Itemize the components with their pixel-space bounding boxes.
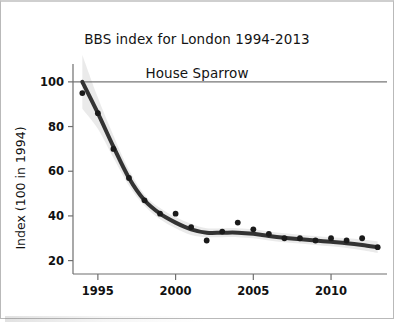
x-tick-label: 2010 [315, 284, 347, 298]
confidence-band [82, 55, 377, 253]
data-point [282, 235, 288, 241]
data-point [250, 226, 256, 232]
data-point [359, 235, 365, 241]
chart-axes [68, 64, 387, 280]
y-tick-label: 20 [48, 254, 64, 268]
data-point [126, 175, 132, 181]
data-point [344, 238, 350, 244]
y-tick-label: 80 [48, 120, 64, 134]
data-point [219, 229, 225, 235]
data-point [79, 90, 85, 96]
x-axis-tick-marks [98, 274, 331, 280]
x-axis-tick-labels: 1995200020052010 [82, 284, 347, 298]
y-axis-title: Index (100 in 1994) [13, 126, 28, 249]
data-point [173, 211, 179, 217]
y-axis-tick-labels: 20406080100 [40, 75, 64, 268]
y-tick-label: 60 [48, 164, 64, 178]
page-edge-artifact [5, 316, 205, 322]
data-point [111, 146, 117, 152]
x-tick-label: 2000 [160, 284, 192, 298]
data-point [157, 211, 163, 217]
chart-plot-area: 20406080100 1995200020052010 Index (100 … [1, 2, 394, 321]
y-tick-label: 40 [48, 209, 64, 223]
data-point [235, 220, 241, 226]
data-point [204, 238, 210, 244]
data-point [328, 235, 334, 241]
x-tick-label: 2005 [237, 284, 269, 298]
trend-line [82, 82, 377, 247]
y-tick-label: 100 [40, 75, 64, 89]
data-point [95, 110, 101, 116]
data-point [188, 224, 194, 230]
y-axis-tick-marks [68, 82, 73, 261]
data-point [142, 197, 148, 203]
data-point [297, 235, 303, 241]
data-point [266, 231, 272, 237]
x-tick-label: 1995 [82, 284, 114, 298]
data-point [313, 238, 319, 244]
data-point [375, 244, 381, 250]
